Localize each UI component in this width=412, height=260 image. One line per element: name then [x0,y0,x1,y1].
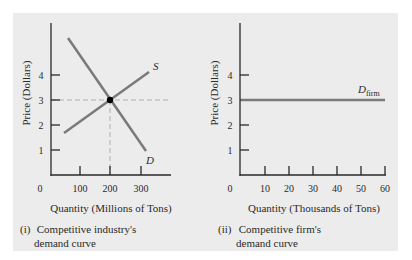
y-tick-label: 3 [228,95,233,106]
x-tick-label: 0 [38,183,43,194]
x-tick-label: 40 [332,183,342,194]
firm-demand-label-main: D [357,83,366,95]
x-tick-label: 300 [134,183,149,194]
y-tick-label: 3 [39,95,44,106]
x-tick-label: 30 [308,183,318,194]
y-tick-label: 1 [39,145,44,156]
caption-line2: demand curve [218,236,321,250]
caption-firm: (ii) Competitive firm's demand curve [218,222,321,250]
y-tick-label: 4 [228,70,233,81]
x-axis-label: Quantity (Millions of Tons) [50,202,172,215]
x-ticks [80,166,141,175]
y-ticks [240,75,249,150]
chart-industry: Price (Dollars) S D 4 3 2 1 [20,23,172,215]
caption-line1: Competitive firm's [239,223,321,235]
demand-curve-d [68,38,146,151]
y-ticks [51,75,60,150]
supply-label: S [153,60,159,72]
equilibrium-point [107,97,113,103]
y-tick-label: 2 [39,120,44,131]
x-tick-label: 200 [103,183,118,194]
y-tick-label: 1 [228,145,233,156]
firm-demand-label: Dfirm [357,83,381,98]
x-ticks [265,166,385,175]
caption-number: (i) [20,222,34,236]
y-axis-label: Price (Dollars) [20,60,33,125]
caption-number: (ii) [218,222,236,236]
y-axis-label: Price (Dollars) [208,60,221,125]
chart-firm: Price (Dollars) Dfirm 4 3 2 1 0 10 20 30 [208,23,390,215]
y-tick-label: 4 [39,70,44,81]
caption-line1: Competitive industry's [37,223,136,235]
x-tick-label: 20 [284,183,294,194]
x-tick-label: 100 [73,183,88,194]
y-tick-label: 2 [228,120,233,131]
supply-curve-s [64,72,149,133]
figure-svg: Price (Dollars) S D 4 3 2 1 [0,0,412,260]
x-tick-label: 10 [260,183,270,194]
x-tick-label: 60 [380,183,390,194]
x-tick-label: 50 [356,183,366,194]
firm-demand-label-sub: firm [366,89,381,98]
caption-industry: (i) Competitive industry's demand curve [20,222,136,250]
x-tick-label: 0 [228,183,233,194]
caption-line2: demand curve [20,236,136,250]
demand-label: D [145,154,154,166]
x-axis-label: Quantity (Thousands of Tons) [248,202,380,215]
